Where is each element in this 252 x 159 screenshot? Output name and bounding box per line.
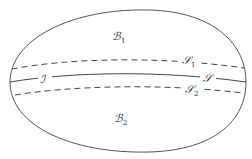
label-s2-subscript: 2: [194, 90, 198, 98]
label-b2: ℬ2: [114, 112, 127, 127]
label-b1-subscript: 1: [121, 37, 125, 45]
label-b1: ℬ1: [112, 30, 125, 45]
label-b2-subscript: 2: [123, 119, 127, 127]
curve-s1: [12, 60, 244, 69]
diagram-canvas: ℬ1 ℬ2 𝒮1 𝒮 𝒮2 ℐ: [0, 0, 252, 159]
curve-s2: [15, 87, 243, 95]
label-s1-subscript: 1: [191, 61, 195, 69]
